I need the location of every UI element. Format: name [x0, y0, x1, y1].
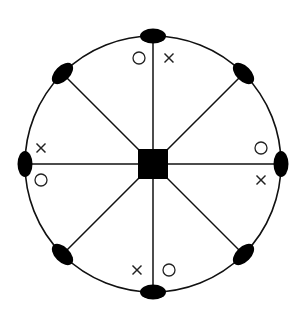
diagram-canvas	[0, 0, 306, 324]
hub-square	[138, 149, 168, 179]
radial-diagram	[0, 0, 306, 324]
circle-marker-icon	[35, 174, 47, 186]
ring-node	[18, 151, 33, 177]
ring-node	[274, 151, 289, 177]
ring-node	[140, 285, 166, 300]
circle-marker-icon	[163, 264, 175, 276]
ring-node	[140, 29, 166, 44]
circle-marker-icon	[255, 142, 267, 154]
circle-marker-icon	[133, 52, 145, 64]
